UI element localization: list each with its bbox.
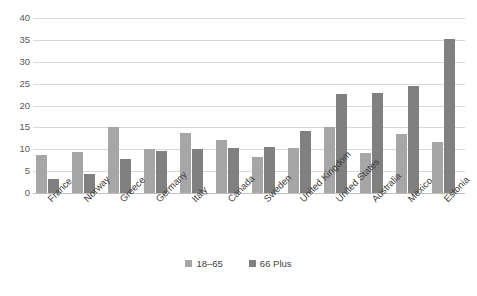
bar	[432, 142, 443, 193]
bar	[144, 149, 155, 193]
bar	[408, 86, 419, 193]
bar-group	[33, 18, 69, 193]
y-axis-tick-label: 30	[2, 57, 30, 67]
legend-item[interactable]: 18–65	[185, 259, 222, 269]
y-axis-tick-label: 20	[2, 101, 30, 111]
plot-area	[33, 18, 465, 193]
y-axis-tick-label: 35	[2, 35, 30, 45]
y-axis-tick-label: 10	[2, 144, 30, 154]
legend-label: 18–65	[196, 259, 222, 269]
bar-chart: 0510152025303540 FranceNorwayGreeceGerma…	[0, 0, 477, 296]
bar-group	[429, 18, 465, 193]
x-axis-category-labels: FranceNorwayGreeceGermanyItalyCanadaSwed…	[33, 193, 465, 253]
legend-swatch-icon	[185, 260, 192, 267]
y-axis-tick-label: 5	[2, 166, 30, 176]
y-axis-tick-label: 25	[2, 79, 30, 89]
bar-group	[177, 18, 213, 193]
bar-group	[141, 18, 177, 193]
bar	[288, 148, 299, 193]
y-axis-tick-label: 40	[2, 13, 30, 23]
bar	[36, 155, 47, 193]
legend-label: 66 Plus	[260, 259, 292, 269]
bar-group	[285, 18, 321, 193]
bar	[252, 157, 263, 193]
bar-group	[393, 18, 429, 193]
bar-group	[249, 18, 285, 193]
chart-legend: 18–6566 Plus	[0, 259, 477, 269]
bar	[72, 152, 83, 193]
legend-swatch-icon	[249, 260, 256, 267]
bar	[372, 93, 383, 193]
bar	[336, 94, 347, 193]
bar	[444, 39, 455, 193]
legend-item[interactable]: 66 Plus	[249, 259, 292, 269]
bar	[180, 133, 191, 193]
bar-group	[105, 18, 141, 193]
bar-group	[69, 18, 105, 193]
bar-group	[213, 18, 249, 193]
y-axis-tick-label: 0	[2, 188, 30, 198]
y-axis-tick-labels: 0510152025303540	[0, 0, 30, 296]
y-axis-tick-label: 15	[2, 122, 30, 132]
bar-groups	[33, 18, 465, 193]
bar	[216, 140, 227, 193]
bar	[396, 134, 407, 193]
